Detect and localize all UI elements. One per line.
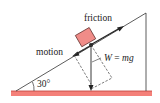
inclined-plane-diagram bbox=[0, 0, 160, 103]
weight-equals: = bbox=[112, 53, 122, 63]
weight-mg: mg bbox=[122, 53, 134, 63]
weight-symbol: W bbox=[104, 53, 112, 63]
angle-arc bbox=[33, 82, 35, 91]
friction-arrow bbox=[92, 28, 120, 44]
component-dashed-perpendicular bbox=[91, 45, 112, 89]
friction-label: friction bbox=[84, 14, 112, 24]
angle-label: 30° bbox=[37, 80, 50, 90]
ground-surface bbox=[11, 91, 152, 96]
weight-label: W = mg bbox=[104, 54, 134, 64]
weight-label-leader bbox=[92, 58, 101, 62]
motion-label: motion bbox=[36, 48, 63, 58]
friction-arrowhead-icon bbox=[117, 26, 124, 32]
